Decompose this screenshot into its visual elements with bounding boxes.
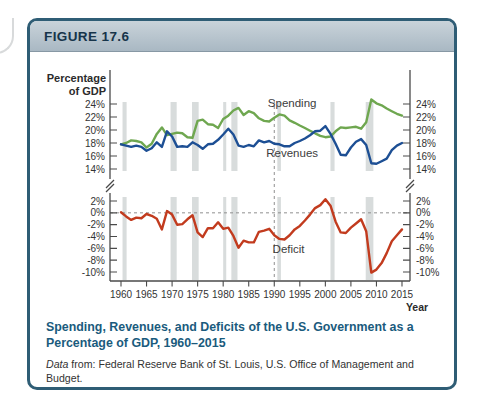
deficit-label: Deficit	[273, 243, 306, 255]
y-tick-label-left: -2%	[87, 219, 105, 230]
x-tick-label: 2005	[340, 289, 363, 300]
recession-band	[171, 197, 177, 280]
y-tick-label-right: -4%	[416, 231, 434, 242]
y-axis-title: of GDP	[69, 85, 106, 97]
recession-band	[123, 102, 127, 171]
y-tick-label-left: 18%	[85, 138, 105, 149]
y-tick-label-left: -8%	[87, 255, 105, 266]
y-tick-label-right: 2%	[416, 196, 431, 207]
y-tick-label-left: 0%	[91, 207, 106, 218]
recession-band	[192, 197, 199, 280]
x-tick-label: 2000	[314, 289, 337, 300]
caption: Spending, Revenues, and Deficits of the …	[30, 314, 454, 390]
recession-band	[123, 197, 127, 280]
figure-label: FIGURE 17.6	[44, 29, 129, 44]
x-tick-label: 2010	[365, 289, 388, 300]
y-tick-label-right: 24%	[416, 99, 436, 110]
y-tick-label-left: 14%	[85, 164, 105, 175]
y-tick-label-left: 22%	[85, 112, 105, 123]
page-edge-artifact	[0, 18, 14, 54]
x-tick-label: 1965	[135, 289, 158, 300]
caption-source: Data from: Federal Reserve Bank of St. L…	[46, 358, 438, 390]
y-tick-label-right: -2%	[416, 219, 434, 230]
spending-label: Spending	[268, 97, 317, 109]
y-tick-label-left: -10%	[82, 267, 105, 278]
y-tick-label-left: -6%	[87, 243, 105, 254]
y-tick-label-right: 16%	[416, 151, 436, 162]
figure-box: FIGURE 17.6 24%24%22%22%20%20%18%18%16%1…	[27, 18, 457, 390]
recession-band	[223, 197, 226, 280]
spending-revenues-deficit-chart: 24%24%22%22%20%20%18%18%16%16%14%14%2%2%…	[30, 52, 454, 314]
revenues-label: Revenues	[266, 147, 318, 159]
deficit-line	[121, 199, 402, 272]
y-axis-title: Percentage	[47, 72, 106, 84]
y-tick-label-right: 22%	[416, 112, 436, 123]
revenues-line	[121, 126, 402, 164]
y-tick-label-left: -4%	[87, 231, 105, 242]
x-tick-label: 1970	[161, 289, 184, 300]
y-tick-label-right: -10%	[416, 267, 439, 278]
y-tick-label-left: 20%	[85, 125, 105, 136]
y-tick-label-left: 16%	[85, 151, 105, 162]
x-tick-label: 1985	[238, 289, 261, 300]
caption-source-prefix: Data	[46, 358, 68, 370]
x-axis-title: Year	[406, 301, 428, 313]
y-tick-label-right: 18%	[416, 138, 436, 149]
caption-source-url: fred.stlouisfed.org	[46, 386, 438, 390]
caption-source-text: from: Federal Reserve Bank of St. Louis,…	[46, 358, 414, 384]
x-tick-label: 1975	[187, 289, 210, 300]
y-tick-label-left: 2%	[91, 196, 106, 207]
x-tick-label: 1995	[289, 289, 312, 300]
y-tick-label-right: -6%	[416, 243, 434, 254]
recession-band	[277, 102, 281, 171]
caption-title: Spending, Revenues, and Deficits of the …	[46, 319, 438, 352]
y-tick-label-right: -8%	[416, 255, 434, 266]
x-tick-label: 1960	[110, 289, 133, 300]
x-tick-label: 2015	[391, 289, 414, 300]
x-tick-label: 1990	[263, 289, 286, 300]
y-tick-label-right: 14%	[416, 164, 436, 175]
recession-band	[223, 102, 226, 171]
y-tick-label-right: 0%	[416, 207, 431, 218]
y-tick-label-right: 20%	[416, 125, 436, 136]
x-tick-label: 1980	[212, 289, 235, 300]
y-tick-label-left: 24%	[85, 99, 105, 110]
chart-area: 24%24%22%22%20%20%18%18%16%16%14%14%2%2%…	[30, 52, 454, 314]
figure-header: FIGURE 17.6	[30, 21, 454, 52]
